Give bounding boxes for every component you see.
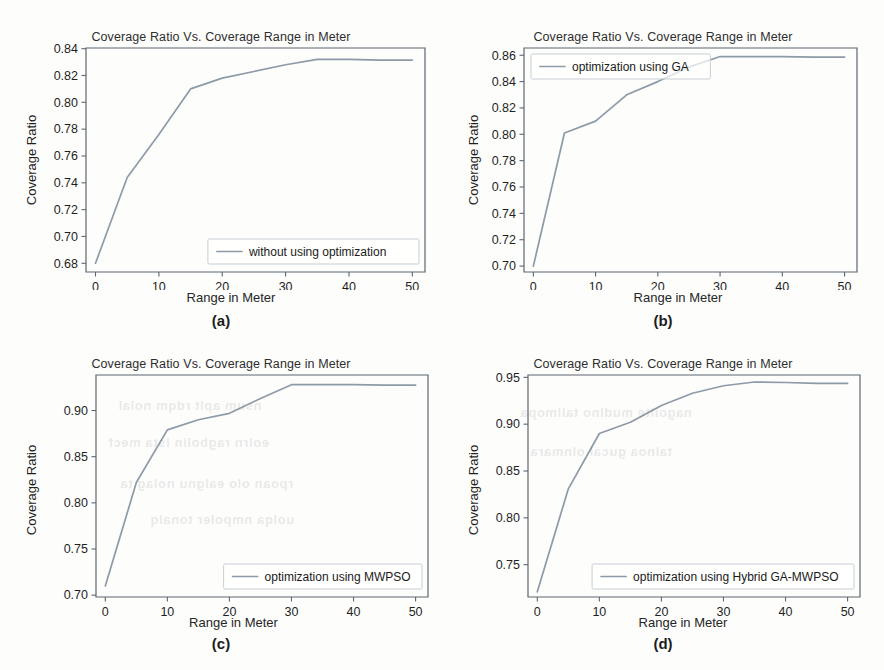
y-tick-label: 0.74 xyxy=(54,176,78,190)
plot-d: 010203040500.750.800.850.900.95Coverage … xyxy=(466,371,860,619)
y-tick-label: 0.84 xyxy=(54,42,78,56)
figure-cell-a: Coverage Ratio Vs. Coverage Range in Met… xyxy=(0,0,442,335)
figure-cell-b: Coverage Ratio Vs. Coverage Range in Met… xyxy=(442,0,884,335)
y-tick-label: 0.80 xyxy=(64,496,88,510)
y-axis-title: Coverage Ratio xyxy=(466,115,481,205)
x-tick-label: 30 xyxy=(713,280,727,290)
y-tick-label: 0.95 xyxy=(496,371,520,385)
x-tick-label: 40 xyxy=(342,280,356,290)
subfigure-caption-a: (a) xyxy=(0,312,442,329)
x-tick-label: 30 xyxy=(279,280,293,290)
y-tick-label: 0.80 xyxy=(54,96,78,110)
y-tick-label: 0.85 xyxy=(496,464,520,478)
plot-b: 010203040500.700.720.740.760.780.800.820… xyxy=(466,48,857,290)
y-tick-label: 0.90 xyxy=(64,404,88,418)
y-tick-label: 0.90 xyxy=(496,417,520,431)
y-tick-label: 0.85 xyxy=(64,450,88,464)
chart-svg-a: 010203040500.680.700.720.740.760.780.800… xyxy=(0,0,442,290)
subfigure-caption-b: (b) xyxy=(442,312,884,329)
subfigure-caption-c: (c) xyxy=(0,635,442,652)
y-tick-label: 0.72 xyxy=(492,233,516,247)
x-tick-label: 0 xyxy=(92,280,99,290)
figure-grid: Coverage Ratio Vs. Coverage Range in Met… xyxy=(0,0,884,670)
subfigure-caption-d: (d) xyxy=(442,635,884,652)
legend-b: optimization using GA xyxy=(531,54,710,79)
y-axis-title: Coverage Ratio xyxy=(24,445,39,535)
y-tick-label: 0.82 xyxy=(492,101,516,115)
legend-a: without using optimization xyxy=(208,239,419,264)
figure-a: Coverage Ratio Vs. Coverage Range in Met… xyxy=(0,0,442,335)
y-tick-label: 0.76 xyxy=(492,180,516,194)
x-axis-title-a: Range in Meter xyxy=(30,290,432,305)
plot-a: 010203040500.680.700.720.740.760.780.800… xyxy=(24,42,425,290)
data-line-c xyxy=(105,385,415,586)
y-axis-title: Coverage Ratio xyxy=(466,445,481,535)
chart-svg-d: 010203040500.750.800.850.900.95Coverage … xyxy=(442,335,884,625)
chart-canvas-b: 010203040500.700.720.740.760.780.800.820… xyxy=(442,0,884,294)
y-tick-label: 0.78 xyxy=(54,122,78,136)
chart-svg-b: 010203040500.700.720.740.760.780.800.820… xyxy=(442,0,884,290)
x-tick-label: 20 xyxy=(651,280,665,290)
chart-canvas-d: 010203040500.750.800.850.900.95Coverage … xyxy=(442,335,884,629)
x-axis-title-b: Range in Meter xyxy=(482,290,874,305)
y-tick-label: 0.70 xyxy=(64,588,88,602)
legend-label: optimization using Hybrid GA-MWPSO xyxy=(633,570,838,584)
figure-c: Coverage Ratio Vs. Coverage Range in Met… xyxy=(0,335,442,670)
chart-svg-c: 010203040500.700.750.800.850.90Coverage … xyxy=(0,335,442,625)
y-axis-title: Coverage Ratio xyxy=(24,115,39,205)
y-tick-label: 0.75 xyxy=(496,558,520,572)
figure-cell-c: Coverage Ratio Vs. Coverage Range in Met… xyxy=(0,335,442,670)
x-axis-title-c: Range in Meter xyxy=(35,615,432,630)
x-tick-label: 50 xyxy=(405,280,419,290)
y-tick-label: 0.72 xyxy=(54,203,78,217)
y-tick-label: 0.82 xyxy=(54,69,78,83)
y-tick-label: 0.86 xyxy=(492,49,516,63)
plot-c: 010203040500.700.750.800.850.90Coverage … xyxy=(24,375,428,619)
y-tick-label: 0.68 xyxy=(54,257,78,271)
x-tick-label: 10 xyxy=(589,280,603,290)
x-tick-label: 40 xyxy=(775,280,789,290)
y-tick-label: 0.74 xyxy=(492,207,516,221)
x-axis-title-d: Range in Meter xyxy=(487,615,879,630)
data-line-d xyxy=(537,382,847,592)
y-tick-label: 0.75 xyxy=(64,542,88,556)
x-tick-label: 20 xyxy=(215,280,229,290)
y-tick-label: 0.80 xyxy=(496,511,520,525)
x-tick-label: 10 xyxy=(152,280,166,290)
x-tick-label: 50 xyxy=(838,280,852,290)
data-line-b xyxy=(533,57,844,267)
y-tick-label: 0.78 xyxy=(492,154,516,168)
figure-cell-d: Coverage Ratio Vs. Coverage Range in Met… xyxy=(442,335,884,670)
y-tick-label: 0.70 xyxy=(492,259,516,273)
x-tick-label: 0 xyxy=(530,280,537,290)
data-line-a xyxy=(96,59,413,263)
figure-d: Coverage Ratio Vs. Coverage Range in Met… xyxy=(442,335,884,670)
chart-canvas-a: 010203040500.680.700.720.740.760.780.800… xyxy=(0,0,442,294)
y-tick-label: 0.84 xyxy=(492,75,516,89)
legend-label: without using optimization xyxy=(248,245,386,259)
legend-label: optimization using MWPSO xyxy=(265,570,411,584)
y-tick-label: 0.80 xyxy=(492,128,516,142)
y-tick-label: 0.70 xyxy=(54,230,78,244)
figure-b: Coverage Ratio Vs. Coverage Range in Met… xyxy=(442,0,884,335)
legend-label: optimization using GA xyxy=(572,60,689,74)
legend-d: optimization using Hybrid GA-MWPSO xyxy=(592,564,854,589)
chart-canvas-c: 010203040500.700.750.800.850.90Coverage … xyxy=(0,335,442,629)
y-tick-label: 0.76 xyxy=(54,149,78,163)
legend-c: optimization using MWPSO xyxy=(224,564,422,589)
